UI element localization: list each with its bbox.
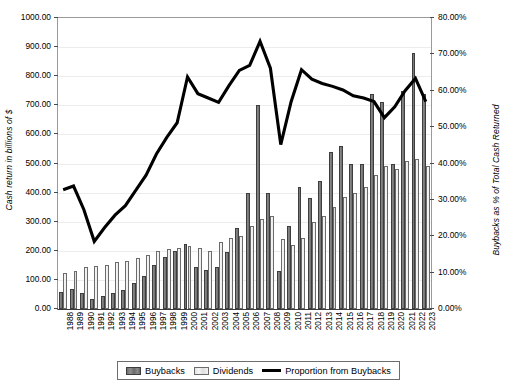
- y-tick-label-right: 20.00%: [438, 230, 490, 240]
- y-tick-label-right: 50.00%: [438, 121, 490, 131]
- plot-area: [57, 17, 432, 310]
- y-axis-label-right: Buybacks as % of Total Cash Returned: [491, 55, 501, 305]
- x-tick-label: 2005: [242, 312, 251, 330]
- y-tick-mark-left: [54, 75, 58, 76]
- x-tick-label: 2011: [304, 312, 313, 330]
- y-tick-mark-left: [54, 163, 58, 164]
- x-tick-label: 1991: [97, 312, 106, 330]
- y-tick-mark-left: [54, 308, 58, 309]
- x-tick-label: 2001: [200, 312, 209, 330]
- x-tick-label: 2000: [190, 312, 199, 330]
- y-tick-mark-right: [430, 272, 434, 273]
- y-tick-mark-left: [54, 250, 58, 251]
- x-tick-label: 2022: [418, 312, 427, 330]
- y-tick-label-left: 300.00: [5, 216, 51, 226]
- y-tick-mark-left: [54, 46, 58, 47]
- x-tick-label: 2017: [366, 312, 375, 330]
- x-tick-label: 1997: [159, 312, 168, 330]
- y-tick-label-right: 60.00%: [438, 85, 490, 95]
- y-tick-label-left: 700.00: [5, 99, 51, 109]
- y-tick-label-right: 40.00%: [438, 158, 490, 168]
- legend-label: Buybacks: [145, 366, 185, 376]
- x-tick-label: 1992: [107, 312, 116, 330]
- line-series-proportion-from-buybacks: [58, 18, 431, 309]
- chart-legend: BuybacksDividendsProportion from Buyback…: [117, 361, 400, 380]
- y-tick-mark-right: [430, 90, 434, 91]
- x-tick-label: 1993: [118, 312, 127, 330]
- x-tick-label: 1996: [149, 312, 158, 330]
- x-tick-label: 2019: [387, 312, 396, 330]
- x-tick-label: 2018: [377, 312, 386, 330]
- x-tick-label: 2013: [325, 312, 334, 330]
- x-tick-label: 1989: [76, 312, 85, 330]
- x-tick-label: 1995: [138, 312, 147, 330]
- x-tick-label: 2021: [408, 312, 417, 330]
- legend-label: Dividends: [213, 366, 253, 376]
- y-tick-label-right: 70.00%: [438, 48, 490, 58]
- y-tick-label-right: 80.00%: [438, 12, 490, 22]
- y-tick-label-right: 10.00%: [438, 267, 490, 277]
- x-tick-label: 1999: [180, 312, 189, 330]
- y-tick-label-left: 0.00: [5, 303, 51, 313]
- x-tick-label: 2023: [428, 312, 437, 330]
- x-tick-label: 1990: [87, 312, 96, 330]
- y-tick-label-left: 900.00: [5, 41, 51, 51]
- x-tick-label: 1998: [169, 312, 178, 330]
- legend-swatch-line: [262, 369, 281, 373]
- y-tick-mark-left: [54, 17, 58, 18]
- x-tick-label: 2003: [221, 312, 230, 330]
- chart-figure: Cash return in billions of $ Buybacks as…: [0, 0, 505, 386]
- x-tick-label: 2002: [211, 312, 220, 330]
- y-tick-label-left: 400.00: [5, 187, 51, 197]
- legend-swatch-dividends: [194, 367, 209, 375]
- y-tick-label-left: 500.00: [5, 158, 51, 168]
- y-tick-mark-right: [430, 308, 434, 309]
- y-tick-mark-right: [430, 126, 434, 127]
- y-tick-mark-left: [54, 104, 58, 105]
- legend-swatch-buybacks: [126, 367, 141, 375]
- x-tick-label: 2014: [335, 312, 344, 330]
- x-tick-label: 1994: [128, 312, 137, 330]
- y-tick-mark-left: [54, 133, 58, 134]
- y-tick-label-left: 1000.00: [5, 12, 51, 22]
- legend-label: Proportion from Buybacks: [285, 366, 391, 376]
- y-tick-label-left: 800.00: [5, 70, 51, 80]
- y-tick-label-left: 100.00: [5, 274, 51, 284]
- x-tick-label: 2012: [314, 312, 323, 330]
- y-tick-label-right: 30.00%: [438, 194, 490, 204]
- x-tick-label: 2015: [346, 312, 355, 330]
- x-tick-label: 2007: [263, 312, 272, 330]
- x-tick-label: 2010: [294, 312, 303, 330]
- x-tick-label: 2006: [252, 312, 261, 330]
- y-tick-mark-left: [54, 192, 58, 193]
- legend-item: Buybacks: [126, 366, 185, 376]
- y-tick-label-left: 600.00: [5, 128, 51, 138]
- x-tick-label: 1988: [66, 312, 75, 330]
- x-tick-label: 2016: [356, 312, 365, 330]
- y-tick-mark-right: [430, 235, 434, 236]
- legend-item: Proportion from Buybacks: [262, 366, 391, 376]
- legend-item: Dividends: [194, 366, 253, 376]
- y-tick-mark-right: [430, 163, 434, 164]
- x-tick-label: 2009: [283, 312, 292, 330]
- y-tick-mark-left: [54, 221, 58, 222]
- line-path: [63, 41, 426, 241]
- y-tick-mark-right: [430, 53, 434, 54]
- x-tick-label: 2020: [397, 312, 406, 330]
- y-tick-label-left: 200.00: [5, 245, 51, 255]
- y-tick-mark-right: [430, 17, 434, 18]
- x-tick-label: 2008: [273, 312, 282, 330]
- y-tick-mark-right: [430, 199, 434, 200]
- x-tick-label: 2004: [232, 312, 241, 330]
- y-tick-mark-left: [54, 279, 58, 280]
- y-tick-label-right: 0.00%: [438, 303, 490, 313]
